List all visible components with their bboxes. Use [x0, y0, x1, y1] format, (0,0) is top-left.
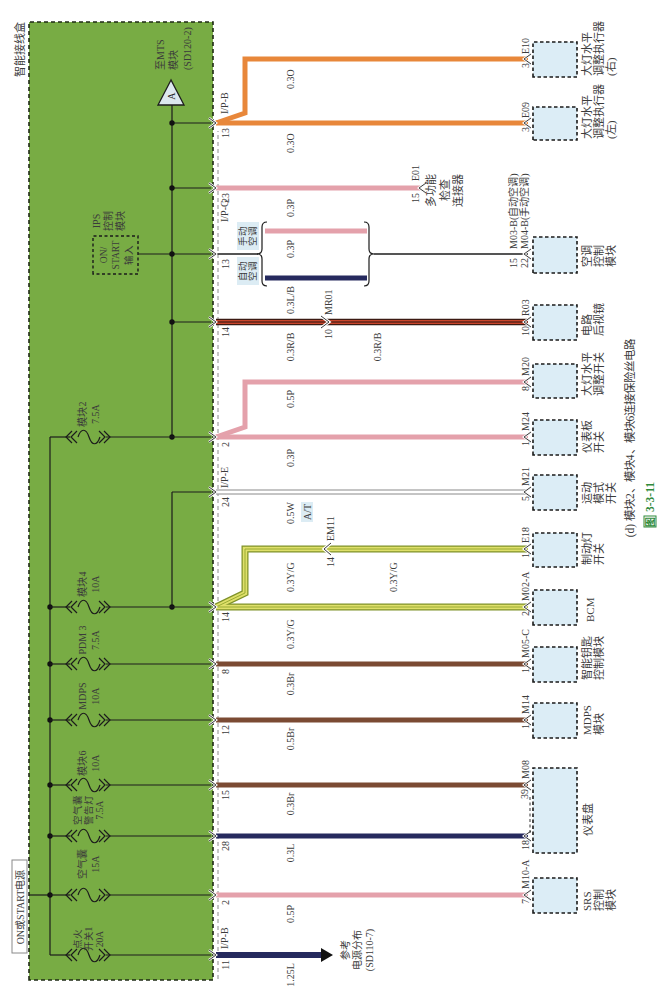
connector-pin: 5	[520, 496, 531, 501]
connector-id: M10-A	[520, 859, 531, 889]
wire-size: 0.3L/B	[285, 286, 296, 314]
component-label: 多功能	[424, 174, 437, 207]
fuse-name: 模块2	[77, 402, 88, 427]
component-brake-light-switch: E18 1 制动灯 开关	[520, 527, 606, 567]
component-label: 模块	[605, 245, 617, 267]
fuse-name: 空气囊	[76, 849, 88, 879]
fuse-rating: 20A	[95, 931, 105, 948]
wire-size: 0.5W	[285, 501, 296, 524]
inline-connector-mr01: MR01 10	[321, 289, 334, 339]
rotated-diagram-frame: 智能接线盒 ON或START电源 A 至MTS 模块 (SD120-2) ON/…	[0, 0, 662, 999]
figure-caption: (d) 模块2、模块4、模块6连接保险丝电路 图 3-3-11	[623, 338, 656, 538]
wire-size: 0.3R/B	[285, 332, 296, 361]
inline-connector-pin: 14	[325, 557, 336, 567]
pin-number: 12	[220, 725, 231, 735]
fuse-rating: 7.5A	[90, 629, 101, 650]
wire-yellow-green	[216, 549, 528, 607]
component-label: BCM	[584, 597, 596, 622]
pin-number: 15	[220, 790, 231, 800]
connector-id: R03	[520, 299, 531, 316]
wire-size: 0.3O	[285, 69, 296, 89]
connector-pin: 1	[520, 553, 531, 558]
connector-pin: 15	[508, 258, 519, 268]
wire-size: 0.3Br	[285, 672, 296, 695]
connector-id: M21	[520, 467, 531, 486]
connector-pin: 1	[520, 441, 531, 446]
auto-ac-label: 自动	[237, 261, 248, 281]
components: E10 3 大灯水平 调整执行器 (右) E09 3 大灯水平 调整执行器 (左…	[410, 21, 619, 913]
pin-number: 13	[220, 259, 231, 269]
connector-id: E10	[520, 38, 531, 54]
component-label: 控制模块	[592, 636, 605, 680]
pin-number: 24	[220, 497, 231, 507]
fuse-name: 点火	[73, 929, 83, 949]
component-label: 后视镜	[592, 303, 605, 336]
connector-id: M05-C	[520, 629, 531, 658]
pin-number: 8	[220, 669, 231, 674]
component-label: 控制	[592, 889, 605, 911]
subfigure-caption: (d) 模块2、模块4、模块6连接保险丝电路	[623, 338, 637, 538]
wire-size: 0.3Y/G	[285, 562, 296, 592]
component-label: 大灯水平	[580, 352, 593, 396]
power-source-tag: ON或START电源	[12, 860, 27, 953]
fuse-name: 模块4	[77, 572, 88, 597]
component-instrument-cluster: M08 39 18 仪表盘	[519, 760, 595, 853]
component-label: 仪表板	[580, 420, 593, 453]
component-label: 开关	[592, 431, 605, 453]
component-label: 控制	[592, 245, 605, 267]
ips-input-label: 输入	[123, 245, 134, 265]
fuse-rating: 10A	[90, 575, 101, 593]
connector-id: M08	[520, 760, 531, 779]
ips-title: IPS	[91, 214, 102, 228]
component-label: 检查	[438, 179, 451, 201]
connector-pin: 1	[520, 668, 531, 673]
pin-number: 14	[220, 612, 231, 622]
component-ac-control-module: M03-B(自动空调) M04-B(手动空调) 15 22 空调 控制 模块	[507, 173, 618, 273]
reference-line: 电源分布	[351, 930, 363, 970]
component-label: MDPS	[581, 705, 593, 735]
wire-size: 0.3Y/G	[388, 562, 399, 592]
connector-id: E01	[410, 165, 421, 181]
inline-connector-name: EM11	[325, 516, 336, 541]
wire-option-label: A/T	[302, 504, 313, 520]
inline-connector-name: MR01	[323, 289, 334, 315]
offpage-marker: A	[166, 92, 177, 100]
component-label: 智能钥匙	[580, 636, 593, 680]
wire-size: 0.3O	[285, 133, 296, 153]
wire-size: 0.3R/B	[372, 332, 383, 361]
reference-line: 参考	[339, 940, 351, 960]
inline-connector-em11: EM11 14	[324, 516, 336, 567]
connector-id: M14	[520, 695, 531, 714]
pin-number: 2	[220, 442, 231, 447]
wiring-diagram: 智能接线盒 ON或START电源 A 至MTS 模块 (SD120-2) ON/…	[0, 0, 662, 999]
pin-number: 28	[220, 841, 231, 851]
connector-pin: 18	[520, 840, 531, 850]
fuse-name: PDM 3	[77, 625, 88, 654]
component-label: 仪表盘	[581, 803, 594, 836]
fuse-rating: 10A	[90, 687, 101, 705]
component-label: 开关	[604, 482, 617, 504]
connector-pin: 22	[519, 258, 530, 268]
ips-title: 控制	[102, 211, 114, 231]
component-headlamp-leveling-switch: M20 8 大灯水平 调整开关	[520, 352, 606, 398]
wire-size: 0.5P	[285, 905, 296, 924]
wire-size: 0.5Br	[285, 727, 296, 750]
connector-pin: 3	[520, 63, 531, 68]
wire-pink-m20	[216, 382, 528, 437]
component-label: 空调	[580, 245, 593, 267]
connector-pin: 15	[410, 193, 421, 203]
wire-size: 0.3P	[285, 449, 296, 468]
wire-size: 0.3P	[285, 240, 296, 259]
connector-id: M24	[520, 412, 531, 431]
component-smart-key-module: M05-C 1 智能钥匙 控制模块	[520, 629, 606, 682]
figure-number: 3-3-11	[644, 482, 656, 512]
connector-pin: 10	[520, 326, 531, 336]
pin-number: 11	[220, 960, 231, 970]
fuse-name: MDPS	[77, 682, 88, 709]
wire-size: 0.3L	[285, 844, 296, 863]
wire-size: 0.3P	[285, 199, 296, 218]
component-instrument-panel-switch: M24 1 仪表板 开关	[520, 412, 606, 455]
component-label: 模块	[593, 713, 605, 735]
ips-title: 模块	[115, 211, 126, 231]
connector-id: E18	[520, 527, 531, 543]
